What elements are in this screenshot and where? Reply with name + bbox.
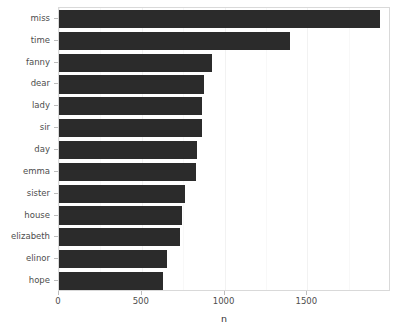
bar-day	[59, 141, 197, 159]
y-tick-label-elizabeth: elizabeth	[11, 232, 50, 241]
bar-house	[59, 206, 182, 224]
x-tick-mark	[58, 291, 59, 295]
bar-elizabeth	[59, 228, 180, 246]
x-tick-label-500: 500	[133, 297, 149, 306]
y-tick-mark	[54, 83, 58, 84]
x-tick-mark	[306, 291, 307, 295]
y-tick-label-dear: dear	[31, 79, 50, 88]
y-tick-label-sister: sister	[27, 188, 50, 197]
bar-lady	[59, 97, 202, 115]
y-tick-mark	[54, 40, 58, 41]
bar-chart: misstimefannydearladysirdayemmasisterhou…	[0, 0, 397, 327]
y-tick-mark	[54, 236, 58, 237]
bars-layer	[59, 8, 389, 290]
x-tick-label-1000: 1000	[213, 297, 235, 306]
y-tick-label-sir: sir	[40, 123, 50, 132]
bar-miss	[59, 10, 380, 28]
bar-sir	[59, 119, 202, 137]
y-tick-mark	[54, 149, 58, 150]
x-tick-mark	[224, 291, 225, 295]
y-tick-mark	[54, 127, 58, 128]
y-tick-label-day: day	[34, 145, 50, 154]
bar-time	[59, 32, 290, 50]
bar-elinor	[59, 250, 167, 268]
y-tick-mark	[54, 258, 58, 259]
y-tick-mark	[54, 18, 58, 19]
bar-emma	[59, 163, 196, 181]
bar-sister	[59, 185, 185, 203]
y-tick-label-miss: miss	[31, 14, 51, 23]
y-tick-label-elinor: elinor	[26, 254, 50, 263]
y-tick-mark	[54, 171, 58, 172]
bar-dear	[59, 75, 204, 93]
bar-hope	[59, 272, 163, 290]
x-axis-title: n	[58, 314, 390, 324]
x-tick-mark	[141, 291, 142, 295]
y-tick-mark	[54, 105, 58, 106]
y-tick-label-fanny: fanny	[26, 57, 50, 66]
y-tick-mark	[54, 62, 58, 63]
y-tick-label-lady: lady	[32, 101, 50, 110]
x-axis: 050010001500	[58, 291, 390, 311]
x-tick-label-1500: 1500	[296, 297, 318, 306]
y-axis: misstimefannydearladysirdayemmasisterhou…	[0, 7, 58, 291]
y-tick-label-emma: emma	[23, 167, 50, 176]
y-tick-label-time: time	[31, 36, 50, 45]
plot-panel	[58, 7, 390, 291]
y-tick-mark	[54, 215, 58, 216]
y-tick-mark	[54, 280, 58, 281]
bar-fanny	[59, 54, 212, 72]
y-tick-mark	[54, 193, 58, 194]
x-tick-label-0: 0	[55, 297, 60, 306]
y-tick-label-hope: hope	[29, 276, 50, 285]
y-tick-label-house: house	[24, 210, 50, 219]
